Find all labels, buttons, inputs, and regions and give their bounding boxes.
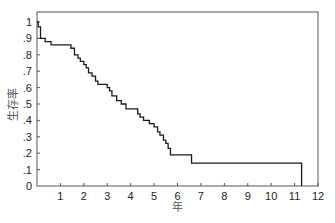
x-axis-label: 年: [172, 200, 183, 214]
x-tick-label: 1: [57, 190, 63, 202]
x-tick-label: 7: [198, 190, 204, 202]
survival-chart: 123456789101112 0.1.2.3.4.5.6.7.8.91 年 生…: [0, 0, 335, 223]
y-tick-label: .4: [23, 114, 32, 126]
y-tick-label: .2: [23, 147, 32, 159]
x-tick-label: 8: [221, 190, 227, 202]
y-tick-label: .5: [23, 98, 32, 110]
plot-frame: [37, 12, 318, 186]
y-tick-label: .3: [23, 131, 32, 143]
y-tick-label: 0: [26, 180, 32, 192]
y-tick-label: .8: [23, 49, 32, 61]
x-tick-label: 4: [128, 190, 134, 202]
y-tick-label: .9: [23, 32, 32, 44]
x-tick-label: 2: [81, 190, 87, 202]
y-tick-label: 1: [26, 16, 32, 28]
x-tick-label: 12: [312, 190, 324, 202]
y-axis-label: 生存率: [6, 88, 20, 121]
x-tick-label: 3: [104, 190, 110, 202]
y-tick-label: .1: [23, 164, 32, 176]
survival-curve: [37, 22, 302, 186]
x-tick-label: 5: [151, 190, 157, 202]
x-tick-label: 10: [265, 190, 277, 202]
y-tick-label: .7: [23, 65, 32, 77]
y-tick-label: .6: [23, 82, 32, 94]
x-tick-label: 9: [245, 190, 251, 202]
x-tick-label: 11: [289, 190, 300, 202]
